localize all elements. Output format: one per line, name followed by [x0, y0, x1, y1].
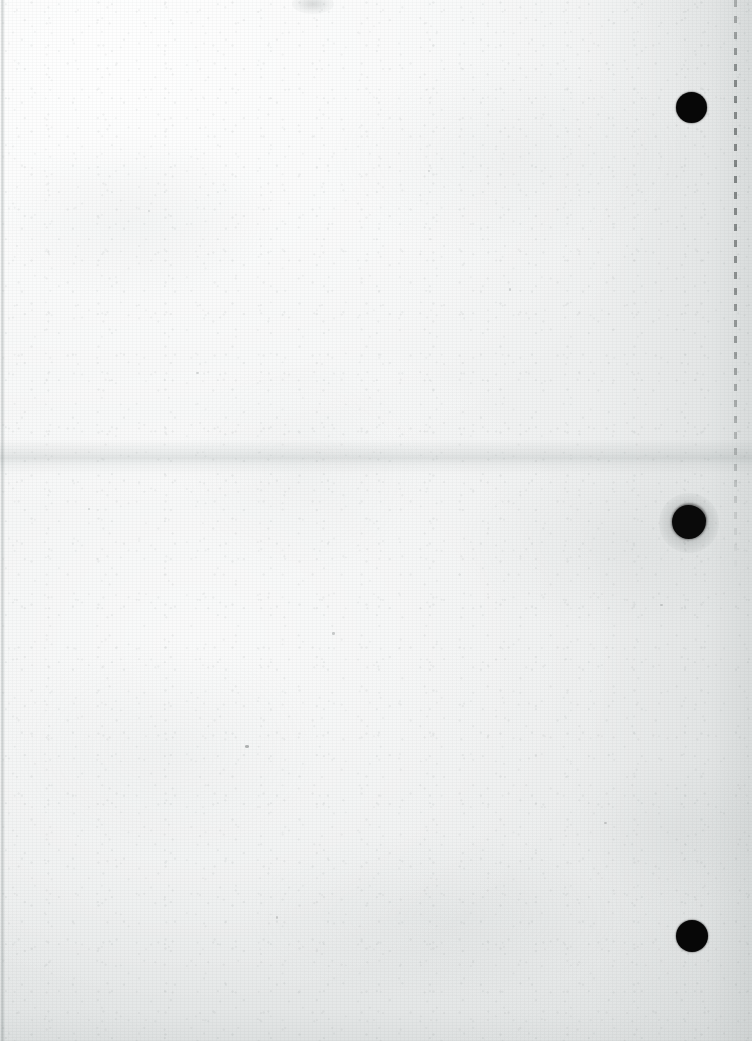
paper-speckle-texture — [0, 0, 752, 1041]
punch-hole-top — [676, 92, 707, 123]
punch-hole-bottom — [676, 920, 708, 952]
scanned-page — [0, 0, 752, 1041]
